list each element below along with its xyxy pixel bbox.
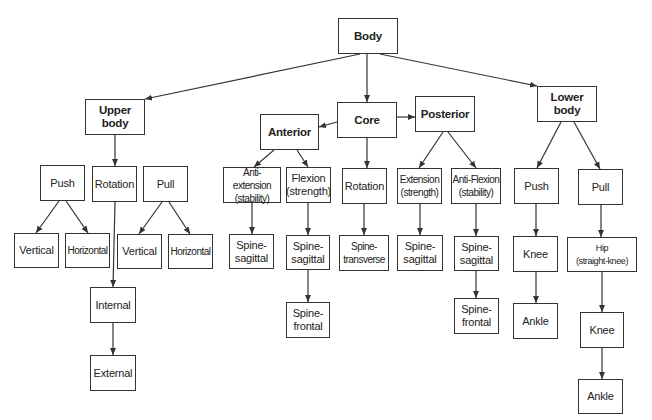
arrow-connector (574, 122, 600, 169)
node-fl-spine-frontal: Spine- frontal (286, 302, 330, 338)
node-anterior: Anterior (260, 114, 319, 150)
node-label: Spine- sagittal (403, 240, 436, 266)
node-label: Vertical (19, 244, 53, 257)
node-label: Ankle (522, 315, 549, 328)
node-af-spine-sagittal: Spine- sagittal (454, 236, 499, 271)
node-label: Posterior (421, 108, 470, 121)
node-label: Lower body (551, 91, 584, 117)
node-rot-external: External (90, 355, 136, 391)
node-body: Body (338, 18, 398, 54)
node-label: Spine- transverse (343, 240, 385, 266)
node-ex-spine-sagittal: Spine- sagittal (397, 235, 443, 271)
node-push-ankle: Ankle (513, 303, 558, 339)
node-label: Knee (590, 324, 615, 337)
arrow-connector (145, 54, 360, 99)
node-posterior: Posterior (415, 96, 475, 132)
arrow-connector (113, 202, 115, 287)
node-lower-pull: Pull (578, 169, 623, 205)
node-push-knee: Knee (513, 236, 558, 272)
node-label: Flexion (strength) (286, 172, 331, 198)
arrow-connector (419, 132, 443, 168)
node-label: Push (50, 177, 74, 190)
node-upper-body: Upper body (85, 99, 145, 135)
node-label: Rotation (345, 180, 384, 193)
arrow-connector (297, 150, 308, 167)
arrow-connector (169, 202, 190, 234)
node-label: Body (354, 30, 382, 43)
node-anti-flexion: Anti-Flexion (stability) (451, 168, 501, 204)
node-label: Spine- sagittal (291, 240, 324, 266)
node-label: Internal (95, 299, 130, 312)
node-label: Anti-extension (stability) (224, 166, 280, 205)
node-label: Spine- sagittal (235, 239, 268, 265)
arrow-connector (36, 201, 59, 233)
node-anti-extension: Anti-extension (stability) (223, 167, 281, 203)
arrow-connector (380, 54, 537, 86)
node-label: Horizontal (67, 244, 107, 257)
node-pull-hip: Hip (straight-knee) (567, 237, 637, 272)
node-label: Hip (straight-knee) (576, 242, 628, 268)
node-label: Pull (592, 181, 610, 194)
node-label: Push (524, 180, 548, 193)
arrow-connector (537, 122, 561, 168)
node-rot-internal: Internal (90, 287, 136, 323)
node-lower-push: Push (514, 168, 559, 204)
node-extension: Extension (strength) (397, 168, 442, 204)
node-pull-ankle: Ankle (578, 379, 623, 414)
arrow-connector (139, 202, 162, 234)
node-label: Upper body (99, 104, 131, 130)
node-upper-pull: Pull (143, 166, 188, 202)
node-upper-push: Push (40, 165, 85, 201)
node-rot-spine-transverse: Spine- transverse (339, 235, 389, 271)
node-label: Anti-Flexion (stability) (453, 173, 500, 199)
node-label: Ankle (587, 390, 614, 403)
node-label: Spine- sagittal (460, 241, 493, 267)
node-core: Core (337, 102, 397, 138)
node-label: External (94, 367, 133, 380)
node-push-vertical: Vertical (14, 233, 59, 268)
arrow-connector (448, 132, 476, 168)
node-label: Vertical (122, 245, 156, 258)
node-fl-spine-sagittal: Spine- sagittal (286, 235, 330, 270)
node-lower-body: Lower body (537, 86, 597, 122)
arrow-connector (66, 201, 88, 233)
node-pull-vertical: Vertical (117, 234, 162, 269)
arrow-connector (254, 150, 274, 167)
node-core-rotation: Rotation (342, 168, 387, 204)
node-label: Spine- frontal (293, 307, 324, 333)
node-label: Rotation (95, 178, 134, 191)
node-push-horizontal: Horizontal (65, 233, 110, 268)
node-label: Knee (523, 248, 548, 261)
node-af-spine-frontal: Spine- frontal (454, 298, 499, 334)
node-label: Extension (strength) (400, 173, 439, 199)
node-upper-rotation: Rotation (92, 166, 137, 202)
node-label: Pull (157, 178, 175, 191)
node-pull-horizontal: Horizontal (168, 234, 213, 269)
node-pull-knee: Knee (580, 312, 624, 348)
node-flexion: Flexion (strength) (286, 167, 331, 203)
node-label: Horizontal (170, 245, 210, 258)
arrow-connector (319, 122, 337, 127)
node-label: Anterior (268, 126, 311, 139)
node-label: Spine- frontal (461, 303, 492, 329)
node-label: Core (354, 114, 379, 127)
node-ae-spine-sagittal: Spine- sagittal (229, 234, 274, 269)
